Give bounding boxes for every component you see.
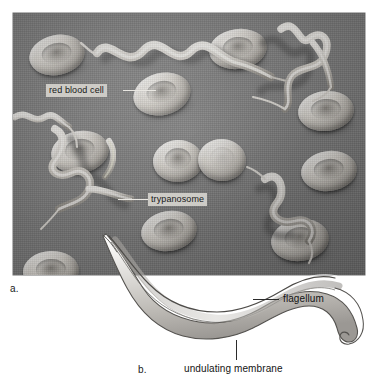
panel-letter-a: a. xyxy=(10,283,19,294)
trypanosome-diagram xyxy=(95,232,371,350)
trypanosome xyxy=(41,129,131,229)
trypanosome xyxy=(15,115,77,147)
label-flagellum: flagellum xyxy=(283,293,324,305)
label-red-blood-cell: red blood cell xyxy=(46,84,107,97)
flagellum-leader-line xyxy=(253,299,279,300)
undulating-membrane-leader-line xyxy=(236,340,237,360)
panel-b-drawing xyxy=(95,232,371,350)
red-blood-cell-leader-line xyxy=(123,90,156,91)
label-trypanosome: trypanosome xyxy=(148,193,207,206)
trypanosome-leader-line xyxy=(118,199,149,200)
panel-letter-b: b. xyxy=(138,364,147,375)
figure-page: red blood cell trypanosome a. xyxy=(0,0,371,384)
label-undulating-membrane: undulating membrane xyxy=(184,363,283,375)
